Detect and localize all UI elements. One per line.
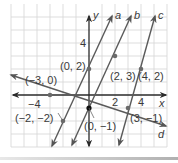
coordinate-plane: y a b c x d 4 −4 2 4 (0, 2) (−3, 0) (2, … [0, 0, 178, 163]
label-point-neg2-neg2: (−2, −2) [15, 112, 54, 124]
tick-x-2: 2 [112, 96, 118, 108]
axis-label-x: x [158, 97, 165, 109]
point-2-3 [113, 54, 118, 59]
label-point-neg3-0: (−3, 0) [25, 74, 57, 86]
line-label-c: c [158, 9, 164, 21]
tick-y-4: 4 [80, 37, 86, 49]
axis-label-y: y [92, 9, 100, 21]
tick-x-neg4: −4 [28, 98, 41, 110]
line-label-a: a [115, 9, 121, 21]
point-0-2 [87, 67, 92, 72]
label-point-2-3: (2, 3) [110, 70, 136, 82]
line-label-b: b [134, 9, 140, 21]
label-point-3-neg1: (3, −1) [130, 112, 162, 124]
point-neg3-0 [48, 93, 53, 98]
bottom-rule [0, 157, 178, 160]
label-point-0-2: (0, 2) [60, 60, 86, 72]
label-point-4-2: (4, 2) [138, 70, 164, 82]
label-point-0-neg1: (0, −1) [84, 120, 116, 132]
point-3-neg1 [126, 106, 131, 111]
tick-x-4: 4 [138, 96, 144, 108]
line-label-d: d [158, 128, 165, 140]
